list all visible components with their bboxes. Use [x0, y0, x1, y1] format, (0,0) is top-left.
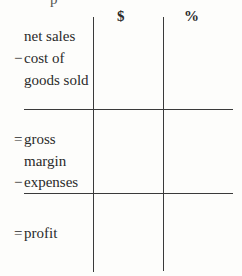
row-margin: margin	[14, 154, 66, 169]
equals-operator: =	[14, 132, 24, 147]
minus-operator: −	[14, 175, 24, 190]
row-label: net sales	[24, 28, 75, 44]
row-label: cost of	[24, 50, 64, 66]
row-label: gross	[24, 131, 56, 147]
equals-operator: =	[14, 226, 24, 241]
row-gross: =gross	[14, 132, 56, 147]
row-goods-sold: goods sold	[14, 73, 89, 88]
row-label: expenses	[24, 174, 78, 190]
column-divider-1	[93, 17, 94, 272]
row-label: margin	[24, 153, 66, 169]
row-net-sales: net sales	[14, 29, 75, 44]
minus-operator: −	[14, 51, 24, 66]
row-divider-1	[24, 109, 233, 110]
cut-off-text: p	[50, 0, 58, 8]
row-expenses: −expenses	[14, 175, 78, 190]
row-profit: =profit	[14, 226, 57, 241]
row-label: profit	[24, 225, 57, 241]
column-divider-2	[163, 17, 164, 271]
column-header-dollar: $	[117, 8, 125, 25]
row-cost-of: −cost of	[14, 51, 64, 66]
row-label: goods sold	[24, 72, 89, 88]
row-divider-2	[24, 193, 233, 194]
column-header-percent: %	[184, 8, 199, 25]
